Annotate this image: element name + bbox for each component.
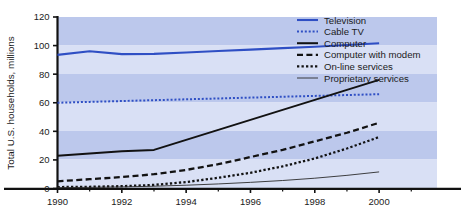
x-tick-label: 1998 bbox=[304, 196, 325, 207]
x-tick-label: 1994 bbox=[176, 196, 197, 207]
legend-label: Proprietary services bbox=[324, 73, 409, 84]
line-chart: 020406080100120 199019921994199619982000… bbox=[0, 0, 465, 216]
legend-label: Television bbox=[324, 15, 366, 26]
y-tick-label: 40 bbox=[39, 126, 50, 137]
legend-label: Computer with modem bbox=[324, 49, 421, 60]
y-tick-label: 100 bbox=[34, 40, 50, 51]
chart-figure: 020406080100120 199019921994199619982000… bbox=[0, 0, 465, 216]
legend-label: On-line services bbox=[324, 61, 393, 72]
x-tick-label: 2000 bbox=[369, 196, 390, 207]
y-axis-ticks: 020406080100120 bbox=[34, 11, 58, 194]
y-tick-label: 20 bbox=[39, 154, 50, 165]
legend-label: Computer bbox=[324, 38, 367, 49]
y-tick-label: 120 bbox=[34, 11, 50, 22]
x-tick-label: 1992 bbox=[111, 196, 132, 207]
x-tick-label: 1990 bbox=[47, 196, 68, 207]
legend-label: Cable TV bbox=[324, 26, 364, 37]
plot-background-bands bbox=[57, 17, 437, 188]
y-tick-label: 0 bbox=[44, 183, 49, 194]
x-axis-ticks: 199019921994199619982000 bbox=[47, 189, 411, 208]
y-tick-label: 80 bbox=[39, 69, 50, 80]
y-axis-title: Total U.S. households, millions bbox=[5, 36, 16, 170]
x-tick-label: 1996 bbox=[240, 196, 261, 207]
y-tick-label: 60 bbox=[39, 97, 50, 108]
